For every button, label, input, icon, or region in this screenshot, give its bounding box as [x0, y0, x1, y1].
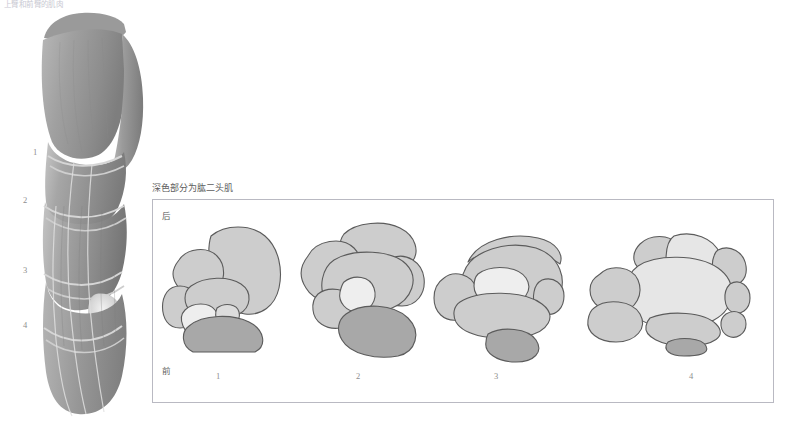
cross-section-number-2: 2 [348, 371, 368, 381]
xs4-biceps-shape [666, 339, 707, 356]
cross-section-number-3: 3 [486, 371, 506, 381]
arm-illustration-svg [30, 6, 150, 422]
arm-muscle-illustration [30, 6, 150, 422]
xs2-biceps-shape [339, 306, 416, 357]
xs4-left-lower-lobe-shape [588, 302, 643, 342]
cross-section-3 [434, 228, 564, 358]
cross-section-1 [163, 222, 287, 352]
arm-level-label-2: 2 [23, 195, 27, 205]
deltoid-shape [42, 29, 125, 158]
axis-label-anterior: 前 [162, 364, 171, 376]
cross-section-number-4: 4 [681, 371, 701, 381]
xs4-right-lobe-upper-shape [725, 282, 750, 313]
cross-section-panel-caption: 深色部分为肱二头肌 [152, 181, 233, 194]
arm-level-label-4: 4 [23, 320, 27, 330]
cross-section-4 [588, 232, 750, 356]
cross-section-number-1: 1 [208, 371, 228, 381]
xs4-right-lobe-lower-shape [721, 312, 746, 338]
xs1-biceps-shape [183, 316, 262, 352]
arm-level-label-3: 3 [23, 265, 27, 275]
axis-label-posterior: 后 [162, 209, 171, 221]
arm-level-label-1: 1 [33, 147, 37, 157]
cross-section-2 [300, 218, 428, 358]
